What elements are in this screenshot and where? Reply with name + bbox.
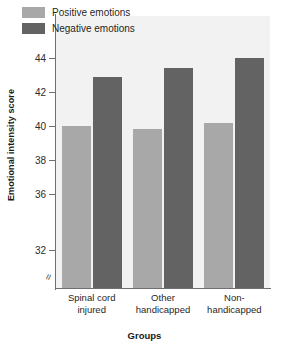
y-tick-mark [49, 58, 56, 59]
y-tick-mark [49, 92, 56, 93]
y-tick-label: 44 [6, 53, 46, 64]
x-axis-title: Groups [0, 330, 289, 341]
y-tick-mark [49, 160, 56, 161]
bar-positive [204, 123, 233, 288]
plot-area [56, 16, 270, 288]
y-tick-mark [49, 250, 56, 251]
x-tick-label-line: Other [127, 292, 198, 304]
y-tick-label: 36 [6, 189, 46, 200]
bar-positive [62, 126, 91, 288]
x-tick-label-line: injured [56, 304, 127, 316]
x-tick-label: Non-handicapped [199, 292, 270, 316]
legend-item-negative: Negative emotions [22, 22, 135, 35]
bar-negative [164, 68, 193, 288]
y-tick-label: 40 [6, 121, 46, 132]
y-tick-mark [49, 126, 56, 127]
axis-break-icon: ≈ [43, 273, 55, 281]
x-tick-label-line: Non- [199, 292, 270, 304]
y-tick-label: 32 [6, 245, 46, 256]
y-axis-line [55, 14, 56, 290]
legend-label-negative: Negative emotions [52, 23, 135, 34]
x-tick-label-line: handicapped [199, 304, 270, 316]
legend-label-positive: Positive emotions [52, 7, 130, 18]
legend-item-positive: Positive emotions [22, 6, 135, 19]
legend-swatch-positive-icon [22, 7, 45, 18]
legend-swatch-negative-icon [22, 23, 45, 34]
bar-positive [133, 129, 162, 288]
x-axis-line [55, 288, 271, 289]
bars-container [56, 16, 270, 288]
bar-chart-figure: Emotional intensity score 323638404244 ≈… [0, 0, 289, 351]
x-tick-label: Otherhandicapped [127, 292, 198, 316]
y-axis-title-text: Emotional intensity score [6, 89, 16, 201]
y-tick-mark [49, 194, 56, 195]
x-tick-label-line: Spinal cord [56, 292, 127, 304]
bar-negative [235, 58, 264, 288]
bar-negative [93, 77, 122, 288]
x-tick-label-line: handicapped [127, 304, 198, 316]
chart-legend: Positive emotions Negative emotions [22, 6, 135, 38]
x-tick-label: Spinal cordinjured [56, 292, 127, 316]
y-tick-label: 38 [6, 155, 46, 166]
y-tick-label: 42 [6, 87, 46, 98]
